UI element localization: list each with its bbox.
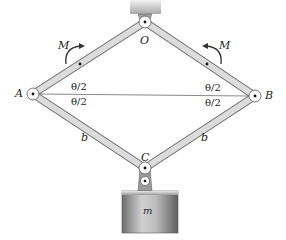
label-c: C [141,152,149,163]
label-o: O [140,35,149,46]
label-b: B [265,90,273,101]
label-angle-a-lower: θ/2 [71,97,87,107]
pin-o-icon [139,16,151,28]
pin-a-icon [27,88,39,100]
label-angle-b-lower: θ/2 [205,98,221,108]
label-angle-a-upper: θ/2 [71,82,87,92]
bar-ac [33,94,145,168]
bar-oa [33,22,145,94]
label-length-ac: b [81,132,88,143]
dot-marker-oa [79,63,82,66]
pin-b-icon [249,90,261,102]
label-angle-b-upper: θ/2 [205,83,221,93]
label-moment-right: M [219,40,230,51]
label-mass: m [143,206,152,216]
pin-hanger-icon [141,177,150,186]
dot-marker-ob [206,63,209,66]
label-length-bc: b [201,132,208,143]
bar-bc [145,96,255,168]
label-a: A [15,88,23,99]
label-moment-left: M [58,40,69,51]
bar-ob [145,22,255,96]
